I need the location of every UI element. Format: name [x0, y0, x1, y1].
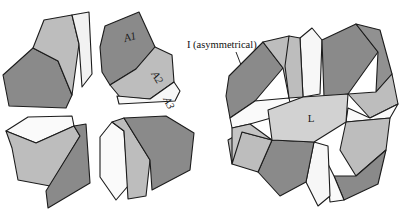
rosette-center-label: L	[308, 112, 315, 124]
tiling-diagram: A1 A2 A3 I (asymmetrical)	[0, 0, 404, 210]
asymmetrical-label: I (asymmetrical)	[187, 39, 257, 51]
tiling-figure: A1 A2 A3 I (asymmetrical)	[0, 0, 404, 210]
rosette-arm2-light	[285, 36, 303, 98]
rosette-arm2-white	[300, 28, 322, 97]
